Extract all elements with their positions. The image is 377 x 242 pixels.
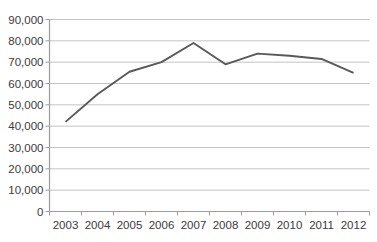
y-axis-tick-label: 90,000 [8, 14, 43, 26]
chart-canvas: 010,00020,00030,00040,00050,00060,00070,… [0, 0, 377, 242]
line-chart: 010,00020,00030,00040,00050,00060,00070,… [0, 0, 377, 242]
x-axis-tick-label: 2007 [181, 219, 207, 231]
y-axis-tick-label: 0 [37, 206, 43, 218]
x-axis-tick-label: 2008 [213, 219, 239, 231]
y-axis-tick-label: 50,000 [8, 99, 43, 111]
y-axis-tick-label: 60,000 [8, 78, 43, 90]
y-axis-tick-label: 40,000 [8, 120, 43, 132]
x-axis-tick-label: 2005 [117, 219, 143, 231]
y-axis-tick-label: 70,000 [8, 56, 43, 68]
x-axis-tick-label: 2004 [85, 219, 111, 231]
data-series-line [66, 43, 354, 122]
x-axis-tick-label: 2006 [149, 219, 175, 231]
x-axis-tick-label: 2012 [341, 219, 367, 231]
y-axis-tick-label: 30,000 [8, 142, 43, 154]
x-axis-tick-label: 2010 [277, 219, 303, 231]
y-axis-tick-label: 20,000 [8, 163, 43, 175]
y-axis-tick-label: 80,000 [8, 35, 43, 47]
x-axis-tick-label: 2003 [53, 219, 79, 231]
x-axis-tick-label: 2009 [245, 219, 271, 231]
x-axis-tick-label: 2011 [309, 219, 334, 231]
y-axis-tick-label: 10,000 [8, 184, 43, 196]
